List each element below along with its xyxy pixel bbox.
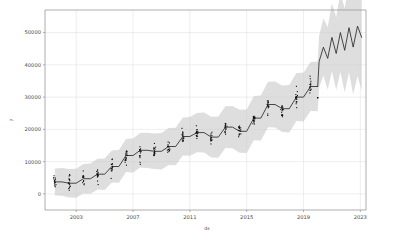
x-axis-label: ds [204, 226, 210, 231]
x-tick-label: 2011 [183, 214, 196, 220]
y-tick-label: 0 [38, 191, 41, 197]
y-axis-label: y [8, 118, 13, 121]
x-tick-label: 2003 [70, 214, 83, 220]
y-tick-label: 40000 [24, 62, 41, 68]
x-tick-label: 2015 [240, 214, 253, 220]
y-tick-label: 50000 [24, 29, 41, 35]
y-tick-label: 10000 [24, 159, 41, 165]
y-tick-label: 20000 [24, 126, 41, 132]
y-tick-label: 30000 [24, 94, 41, 100]
chart-canvas: 200320072011201520192023 010000200003000… [0, 0, 396, 240]
x-tick-label: 2019 [297, 214, 310, 220]
prophet-forecast-figure: 200320072011201520192023 010000200003000… [0, 0, 396, 240]
x-tick-label: 2023 [354, 214, 367, 220]
x-tick-label: 2007 [126, 214, 139, 220]
